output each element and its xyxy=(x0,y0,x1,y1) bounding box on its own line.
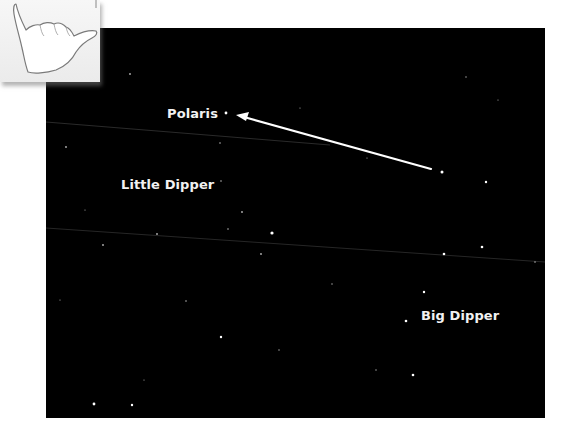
star-polaris xyxy=(225,112,228,115)
night-sky-photo xyxy=(46,28,545,418)
dim-stars xyxy=(59,73,535,381)
faint-trail xyxy=(46,228,545,262)
star-big-dipper-pointer xyxy=(441,171,444,174)
hand-gesture-card xyxy=(0,0,100,82)
label-polaris: Polaris xyxy=(167,107,218,120)
faint-trail xyxy=(46,122,330,145)
hang-loose-hand-icon xyxy=(0,0,100,82)
label-little-dipper: Little Dipper xyxy=(121,178,214,191)
arrowhead-icon xyxy=(236,112,249,121)
label-big-dipper: Big Dipper xyxy=(421,309,499,322)
pointer-arrow xyxy=(236,112,431,169)
star-field xyxy=(46,28,545,418)
bright-stars xyxy=(93,112,488,407)
